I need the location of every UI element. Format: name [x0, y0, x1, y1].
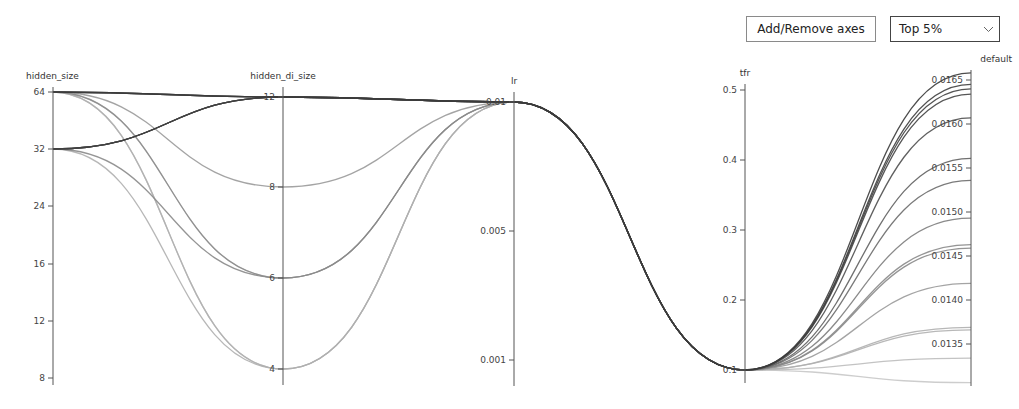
tick-label: 0.4	[723, 155, 738, 165]
run-lines	[53, 73, 971, 383]
run-line[interactable]	[53, 97, 971, 370]
tick-label: 0.005	[480, 226, 506, 236]
axis-title: hidden_di_size	[250, 71, 316, 81]
tick-label: 64	[34, 87, 46, 97]
axis-title: default	[980, 54, 1012, 64]
tick-label: 16	[34, 259, 46, 269]
run-line[interactable]	[53, 97, 971, 370]
axis-hidden-di-size[interactable]: hidden_di_size12864	[250, 71, 316, 385]
tick-label: 12	[34, 316, 45, 326]
tick-label: 0.0150	[932, 207, 964, 217]
axis-title: hidden_size	[26, 71, 79, 81]
run-line[interactable]	[53, 84, 971, 370]
tick-label: 24	[34, 201, 46, 211]
axis-tfr[interactable]: tfr0.50.40.30.20.1	[723, 68, 751, 383]
axis-default[interactable]: default0.01650.01600.01550.01500.01450.0…	[932, 54, 1013, 386]
axis-title: tfr	[740, 68, 751, 78]
tick-label: 6	[269, 273, 275, 283]
axis-title: lr	[511, 76, 518, 86]
tick-label: 8	[39, 373, 45, 383]
tick-label: 0.0140	[932, 295, 964, 305]
parallel-coordinates-chart: hidden_size64322416128hidden_di_size1286…	[0, 0, 1019, 409]
axis-hidden-size[interactable]: hidden_size64322416128	[26, 71, 79, 385]
tick-label: 0.01	[486, 97, 506, 107]
tick-label: 32	[34, 144, 45, 154]
run-line[interactable]	[53, 102, 971, 370]
tick-label: 0.0155	[932, 163, 964, 173]
tick-label: 0.1	[723, 365, 737, 375]
tick-label: 0.0135	[932, 339, 964, 349]
tick-label: 0.001	[480, 355, 506, 365]
run-line[interactable]	[53, 102, 971, 370]
tick-label: 0.3	[723, 225, 737, 235]
run-line[interactable]	[53, 89, 971, 370]
tick-label: 0.2	[723, 295, 737, 305]
axis-lr[interactable]: lr0.010.0050.001	[480, 76, 517, 386]
tick-label: 4	[269, 364, 275, 374]
tick-label: 0.0145	[932, 251, 964, 261]
tick-label: 0.5	[723, 85, 737, 95]
tick-label: 12	[264, 92, 275, 102]
tick-label: 8	[269, 182, 275, 192]
tick-label: 0.0165	[932, 75, 964, 85]
tick-label: 0.0160	[932, 119, 964, 129]
